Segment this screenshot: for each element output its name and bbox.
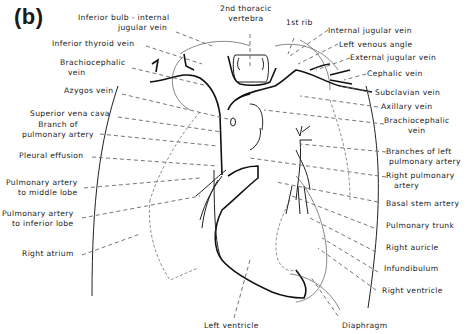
- label-azygos-vein: Azygos vein: [64, 86, 113, 96]
- label-subclavian-vein: Subclavian vein: [375, 88, 440, 98]
- label-inferior-thyroid-vein: Inferior thyroid vein: [52, 39, 134, 49]
- label-right-ventricle: Right ventricle: [382, 286, 443, 296]
- label-external-jugular-vein: External jugular vein: [350, 53, 436, 63]
- label-brachiocephalic-vein-right: Brachiocephalic vein: [60, 58, 126, 78]
- label-left-venous-angle: Left venous angle: [339, 40, 413, 50]
- label-pleural-effusion: Pleural effusion: [19, 151, 83, 161]
- label-superior-vena-cava: Superior vena cava: [30, 109, 110, 119]
- label-brachiocephalic-vein-left: Brachiocephalic vein: [384, 116, 450, 136]
- label-left-ventricle: Left ventricle: [204, 321, 259, 331]
- label-internal-jugular-vein: Internal jugular vein: [328, 26, 412, 36]
- label-axillary-vein: Axillary vein: [381, 102, 432, 112]
- label-2nd-thoracic-vertebra: 2nd thoracic vertebra: [220, 4, 272, 24]
- label-pa-middle-lobe: Pulmonary artery to middle lobe: [6, 178, 78, 198]
- label-cephalic-vein: Cephalic vein: [367, 69, 423, 79]
- leader-lines: [0, 0, 468, 334]
- label-inferior-bulb: Inferior bulb - internal jugular vein: [78, 13, 169, 33]
- label-infundibulum: Infundibulum: [384, 264, 438, 274]
- label-branches-left-pa: Branches of left pulmonary artery: [386, 147, 461, 167]
- label-diaphragm: Diaphragm: [342, 321, 387, 331]
- label-basal-stem-artery: Basal stem artery: [386, 199, 459, 209]
- label-pa-inferior-lobe: Pulmonary artery to inferior lobe: [2, 209, 74, 229]
- label-right-auricle: Right auricle: [386, 243, 439, 253]
- label-branch-pulmonary-artery: Branch of pulmonary artery: [22, 120, 94, 140]
- label-right-pulmonary-artery: Right pulmonary artery: [386, 171, 455, 191]
- label-1st-rib: 1st rib: [286, 18, 313, 28]
- label-right-atrium: Right atrium: [22, 249, 74, 259]
- label-pulmonary-trunk: Pulmonary trunk: [386, 221, 454, 231]
